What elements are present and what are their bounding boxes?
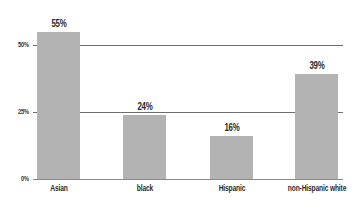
bar-value-label: 55% xyxy=(44,17,73,29)
bar-value-label: 24% xyxy=(130,100,159,112)
x-category-label: black xyxy=(108,183,182,193)
x-category-label: non-Hispanic white xyxy=(280,183,354,193)
gridline-0 xyxy=(33,179,343,180)
y-tick-label: 50% xyxy=(7,40,29,49)
bar-non-hispanic-white xyxy=(295,74,338,179)
y-tick-label: 0% xyxy=(7,174,29,183)
x-category-label: Asian xyxy=(22,183,96,193)
bar-asian xyxy=(37,32,80,179)
x-category-label: Hispanic xyxy=(195,183,269,193)
bar-value-label: 16% xyxy=(217,121,246,133)
bar-black xyxy=(123,115,166,179)
y-tick-label: 25% xyxy=(7,107,29,116)
bar-chart: 0%25%50% 55%Asian24%black16%Hispanic39%n… xyxy=(0,0,363,209)
bar-value-label: 39% xyxy=(302,59,331,71)
bar-hispanic xyxy=(210,136,253,179)
